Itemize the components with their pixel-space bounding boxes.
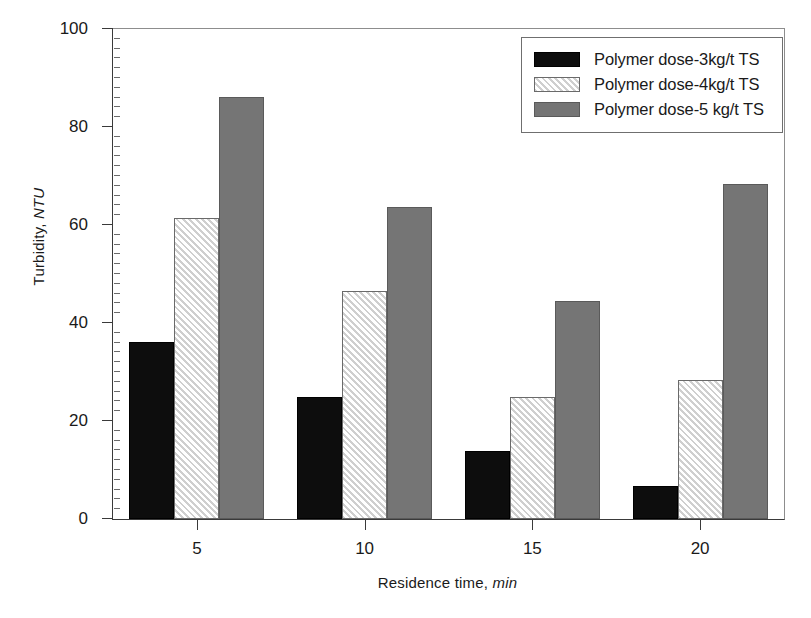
bar [129, 342, 174, 519]
legend-label-series-2: Polymer dose-4kg/t TS [594, 75, 759, 94]
y-axis-tick-label: 20 [69, 411, 88, 431]
x-axis-title: Residence time, min [112, 574, 783, 591]
legend-label-series-1: Polymer dose-3kg/t TS [594, 50, 759, 69]
y-axis-tick-label: 100 [60, 19, 88, 39]
y-axis-tick-label: 40 [69, 313, 88, 333]
y-axis-title: Turbidity, NTU [30, 137, 47, 337]
legend-swatch-series-3 [534, 102, 580, 117]
x-axis-title-text: Residence time, [378, 574, 489, 591]
x-axis-tick-label: 20 [691, 539, 710, 559]
y-axis-major-tick: 0 [102, 518, 113, 519]
y-axis-major-tick: 60 [102, 224, 113, 225]
x-axis-tick-label: 15 [523, 539, 542, 559]
x-axis-tick [197, 519, 198, 530]
bar [387, 207, 432, 519]
legend-item: Polymer dose-5 kg/t TS [534, 97, 772, 122]
bar [678, 380, 723, 519]
bar [555, 301, 600, 519]
bar [297, 397, 342, 519]
chart-legend: Polymer dose-3kg/t TS Polymer dose-4kg/t… [521, 37, 783, 133]
legend-item: Polymer dose-3kg/t TS [534, 47, 772, 72]
y-axis-tick-label: 80 [69, 117, 88, 137]
y-axis-tick-label: 0 [79, 509, 88, 529]
legend-swatch-series-1 [534, 52, 580, 67]
x-axis-tick-label: 10 [355, 539, 374, 559]
bar-chart-figure: Turbidity, NTU 020406080100 5101520 Resi… [0, 0, 811, 618]
bar [723, 184, 768, 519]
y-axis-title-units: NTU [30, 188, 47, 219]
bar [633, 486, 678, 519]
x-axis-title-units: min [493, 574, 518, 591]
y-axis-tick-label: 60 [69, 215, 88, 235]
x-axis-tick [700, 519, 701, 530]
x-axis-tick [365, 519, 366, 530]
x-axis-tick-label: 5 [192, 539, 201, 559]
legend-item: Polymer dose-4kg/t TS [534, 72, 772, 97]
y-axis-major-tick: 100 [102, 28, 113, 29]
legend-label-series-3: Polymer dose-5 kg/t TS [594, 100, 764, 119]
bar [510, 397, 555, 520]
y-axis-major-tick: 80 [102, 126, 113, 127]
x-axis-tick [532, 519, 533, 530]
bar [342, 291, 387, 519]
y-axis-major-tick: 20 [102, 420, 113, 421]
bar [174, 218, 219, 519]
bar [465, 451, 510, 519]
y-axis-title-text: Turbidity, [30, 223, 47, 285]
bar [219, 97, 264, 519]
y-axis-major-tick: 40 [102, 322, 113, 323]
legend-swatch-series-2 [534, 77, 580, 92]
